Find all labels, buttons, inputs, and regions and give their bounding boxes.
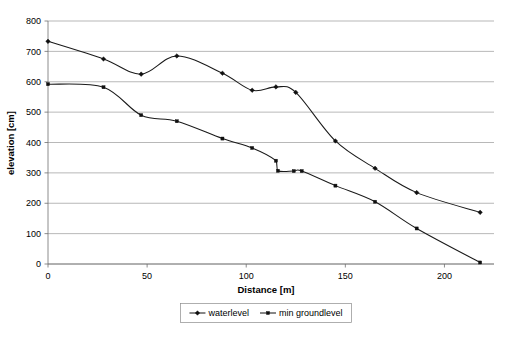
data-point-marker xyxy=(139,72,144,77)
y-axis-tick-labels: 0100200300400500600700800 xyxy=(26,16,41,269)
series-line xyxy=(48,41,480,212)
data-point-marker xyxy=(274,159,277,162)
elevation-distance-chart: 0100200300400500600700800 050100150200 e… xyxy=(0,0,505,337)
chart-legend: waterlevelmin groundlevel xyxy=(180,304,351,323)
legend-label: waterlevel xyxy=(207,308,249,318)
grid-lines xyxy=(48,21,494,264)
data-point-marker xyxy=(250,88,255,93)
x-tick-label: 100 xyxy=(239,271,254,281)
data-point-marker xyxy=(101,57,106,62)
data-point-marker xyxy=(251,146,254,149)
data-point-marker xyxy=(274,85,279,90)
y-tick-label: 0 xyxy=(36,259,41,269)
data-point-marker xyxy=(479,261,482,264)
data-point-marker xyxy=(221,137,224,140)
data-point-marker xyxy=(414,190,419,195)
y-tick-label: 800 xyxy=(26,16,41,26)
data-point-marker xyxy=(374,200,377,203)
data-point-marker xyxy=(292,170,295,173)
data-point-marker xyxy=(276,169,279,172)
y-tick-label: 400 xyxy=(26,138,41,148)
axis-lines xyxy=(45,21,495,268)
chart-container: 0100200300400500600700800 050100150200 e… xyxy=(0,0,505,337)
data-point-marker xyxy=(300,170,303,173)
x-axis-tick-labels: 050100150200 xyxy=(45,271,451,281)
data-point-marker xyxy=(334,184,337,187)
legend-marker-sample xyxy=(266,311,269,314)
data-point-marker xyxy=(175,120,178,123)
y-tick-label: 200 xyxy=(26,198,41,208)
data-point-marker xyxy=(415,227,418,230)
y-tick-label: 600 xyxy=(26,77,41,87)
y-tick-label: 100 xyxy=(26,229,41,239)
data-point-marker xyxy=(478,210,483,215)
data-point-marker xyxy=(46,83,49,86)
series-waterlevel xyxy=(46,39,483,215)
y-tick-label: 700 xyxy=(26,47,41,57)
y-axis-title: elevation [cm] xyxy=(5,111,16,175)
data-point-marker xyxy=(46,39,51,44)
x-tick-label: 50 xyxy=(142,271,152,281)
legend-label: min groundlevel xyxy=(279,308,343,318)
data-point-marker xyxy=(175,54,180,59)
y-tick-label: 500 xyxy=(26,107,41,117)
x-tick-label: 0 xyxy=(45,271,50,281)
data-point-marker xyxy=(220,71,225,76)
data-point-marker xyxy=(102,86,105,89)
y-tick-label: 300 xyxy=(26,168,41,178)
x-tick-label: 150 xyxy=(338,271,353,281)
x-axis-title: Distance [m] xyxy=(237,284,294,295)
series-min-groundlevel xyxy=(46,83,481,264)
data-series-layer xyxy=(46,39,483,264)
data-point-marker xyxy=(140,114,143,117)
x-tick-label: 200 xyxy=(437,271,452,281)
